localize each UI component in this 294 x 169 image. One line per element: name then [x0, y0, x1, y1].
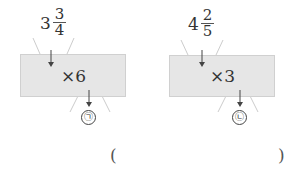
machine-2-arrows	[147, 0, 294, 130]
answer-close-paren: )	[278, 145, 285, 165]
answer-open-paren: (	[110, 145, 117, 165]
machine-1-arrows	[0, 0, 147, 130]
machine-2-output-label: ㉡	[232, 110, 247, 125]
machine-1-operation: ×6	[61, 66, 86, 86]
machine-2-operation: ×3	[210, 66, 235, 86]
machine-2: 4 2 5 ×3 ㉡	[147, 0, 294, 130]
machine-1-output-label: ㉠	[81, 110, 96, 125]
machine-1: 3 3 4 ×6 ㉠	[0, 0, 147, 130]
